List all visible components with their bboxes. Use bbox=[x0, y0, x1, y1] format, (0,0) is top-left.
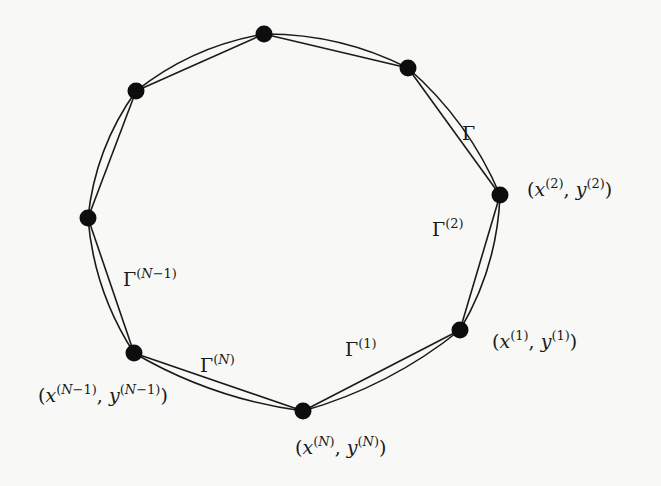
var-x: x bbox=[499, 330, 510, 352]
superscript: (N−1) bbox=[56, 382, 97, 397]
var-y: y bbox=[576, 178, 587, 200]
superscript: (N) bbox=[358, 434, 380, 449]
node-n1 bbox=[452, 322, 469, 339]
gamma-symbol: Γ bbox=[432, 218, 445, 240]
edge-chord bbox=[264, 34, 408, 68]
edge-label-gamma-N: Γ(N) bbox=[200, 356, 235, 375]
var-x: x bbox=[45, 384, 56, 406]
comma: , bbox=[97, 384, 109, 406]
diagram-canvas: Γ Γ(2) Γ(1) Γ(N) Γ(N−1) (x(2), y(2)) (x(… bbox=[0, 0, 661, 486]
paren-close: ) bbox=[570, 330, 577, 352]
edge-chord bbox=[136, 34, 264, 91]
edge-label-gamma-2: Γ(2) bbox=[432, 220, 464, 239]
gamma-symbol: Γ bbox=[123, 268, 136, 290]
superscript-rest: −1) bbox=[153, 266, 177, 281]
var-x: x bbox=[302, 436, 313, 458]
edge-label-gamma-N-minus-1: Γ(N−1) bbox=[123, 270, 177, 289]
superscript: (1) bbox=[551, 328, 569, 343]
var-y: y bbox=[347, 436, 358, 458]
superscript-var: N bbox=[363, 434, 374, 449]
node-label-point-N-minus-1: (x(N−1), y(N−1)) bbox=[38, 386, 168, 405]
superscript: (2) bbox=[445, 216, 463, 231]
edge-label-gamma: Γ bbox=[462, 124, 475, 143]
edge-chord bbox=[408, 68, 500, 195]
node-label-point-2: (x(2), y(2)) bbox=[527, 180, 612, 199]
edge-nTop-nUpperRight bbox=[264, 34, 408, 68]
node-nLeft bbox=[80, 210, 97, 227]
gamma-symbol: Γ bbox=[200, 354, 213, 376]
node-nUpperLeft bbox=[128, 83, 145, 100]
paren-close: ) bbox=[605, 178, 612, 200]
edge-n2-n1 bbox=[460, 195, 500, 330]
node-nUpperRight bbox=[400, 60, 417, 77]
node-n2 bbox=[492, 187, 509, 204]
superscript: (1) bbox=[358, 336, 376, 351]
superscript: (N−1) bbox=[136, 266, 177, 281]
superscript-var: N bbox=[125, 382, 136, 397]
superscript: (1) bbox=[510, 328, 528, 343]
edge-chord bbox=[460, 195, 500, 330]
var-y: y bbox=[109, 384, 120, 406]
gamma-symbol: Γ bbox=[345, 338, 358, 360]
contour-diagram bbox=[0, 0, 661, 486]
edge-nLeft-nUpperLeft bbox=[88, 91, 136, 218]
superscript-rest: −1) bbox=[73, 382, 97, 397]
gamma-symbol: Γ bbox=[462, 122, 475, 144]
superscript-var: N bbox=[218, 352, 229, 367]
superscript-var: N bbox=[61, 382, 72, 397]
node-nN bbox=[295, 403, 312, 420]
superscript: (N) bbox=[213, 352, 235, 367]
paren-close: ) bbox=[160, 384, 167, 406]
comma: , bbox=[529, 330, 541, 352]
paren-close: ) bbox=[379, 436, 386, 458]
superscript-var: N bbox=[318, 434, 329, 449]
superscript: (2) bbox=[586, 176, 604, 191]
node-label-point-N: (x(N), y(N)) bbox=[295, 438, 386, 457]
comma: , bbox=[335, 436, 347, 458]
node-nNm1 bbox=[126, 345, 143, 362]
edge-chord bbox=[88, 91, 136, 218]
var-y: y bbox=[541, 330, 552, 352]
superscript: (N) bbox=[313, 434, 335, 449]
edge-n1-nN bbox=[303, 330, 460, 411]
edge-chord bbox=[303, 330, 460, 411]
var-x: x bbox=[534, 178, 545, 200]
edge-nUpperLeft-nTop bbox=[136, 34, 264, 91]
superscript-rest: −1) bbox=[136, 382, 160, 397]
node-label-point-1: (x(1), y(1)) bbox=[492, 332, 577, 351]
edge-label-gamma-1: Γ(1) bbox=[345, 340, 377, 359]
node-nTop bbox=[256, 26, 273, 43]
paren: ) bbox=[374, 434, 379, 449]
superscript-var: N bbox=[141, 266, 152, 281]
superscript: (2) bbox=[545, 176, 563, 191]
superscript: (N−1) bbox=[120, 382, 161, 397]
edge-nUpperRight-n2 bbox=[408, 68, 500, 195]
paren: ) bbox=[330, 434, 335, 449]
comma: , bbox=[564, 178, 576, 200]
